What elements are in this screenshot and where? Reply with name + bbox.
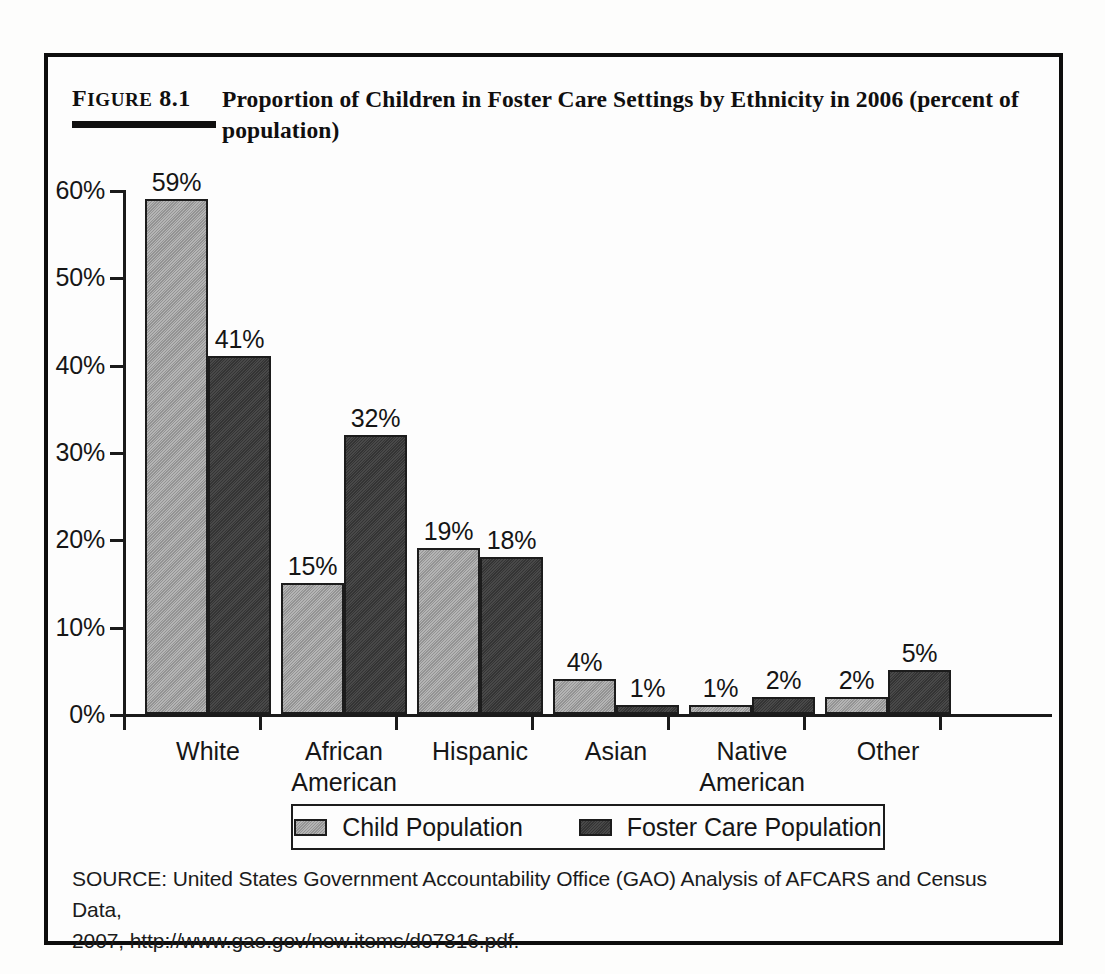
bar-child-population: 59% <box>145 199 208 714</box>
y-axis-tick <box>110 365 123 368</box>
bar-child-population: 2% <box>825 697 888 714</box>
x-axis-category-label: AfricanAmerican <box>291 736 397 798</box>
bar-value-label: 2% <box>766 666 802 695</box>
y-axis-tick-label: 0% <box>69 700 105 729</box>
bar-child-population: 19% <box>417 548 480 714</box>
chart-legend: Child PopulationFoster Care Population <box>291 804 885 850</box>
bar-child-population: 1% <box>689 705 752 714</box>
x-axis-category-label-line: African <box>291 736 397 767</box>
y-axis-line <box>123 190 126 714</box>
bar-group: 4%1%Asian <box>553 190 679 714</box>
y-axis-tick-label: 20% <box>56 525 105 554</box>
bar-foster-care-population: 32% <box>344 435 407 714</box>
bar-child-population: 15% <box>281 583 344 714</box>
legend-item: Child Population <box>294 813 522 842</box>
x-axis-category-label-line: White <box>176 736 240 767</box>
bar-value-label: 59% <box>152 168 201 197</box>
plot-area: 60%50%40%30%20%10%0% 59%41%White15%32%Af… <box>123 190 1052 714</box>
y-axis-tick-label: 60% <box>56 176 105 205</box>
bar-foster-care-population: 2% <box>752 697 815 714</box>
x-axis-tick <box>259 717 262 730</box>
bar-foster-care-population: 1% <box>616 705 679 714</box>
bar-group: 59%41%White <box>145 190 271 714</box>
y-axis-tick-label: 40% <box>56 350 105 379</box>
source-line-2: 2007, http://www.gao.gov/new.items/d0781… <box>72 925 1040 956</box>
bar-foster-care-population: 41% <box>208 356 271 714</box>
y-axis-tick <box>110 539 123 542</box>
bar-value-label: 1% <box>630 674 666 703</box>
x-axis-category-label: NativeAmerican <box>699 736 805 798</box>
bar-value-label: 2% <box>839 666 875 695</box>
bar-value-label: 32% <box>351 404 400 433</box>
y-axis-tick <box>110 277 123 280</box>
bar-value-label: 15% <box>288 552 337 581</box>
bar-group-bars: 1%2% <box>689 190 815 714</box>
x-axis-category-label: Hispanic <box>432 736 528 767</box>
bar-foster-care-population: 18% <box>480 557 543 714</box>
bar-group: 19%18%Hispanic <box>417 190 543 714</box>
y-axis-tick-label: 10% <box>56 612 105 641</box>
x-axis-line <box>123 714 1052 717</box>
y-axis-tick <box>110 714 123 717</box>
bar-group: 1%2%NativeAmerican <box>689 190 815 714</box>
bar-group: 15%32%AfricanAmerican <box>281 190 407 714</box>
bar-value-label: 4% <box>567 648 603 677</box>
x-axis-tick <box>803 717 806 730</box>
bar-value-label: 19% <box>424 517 473 546</box>
legend-swatch <box>294 819 327 836</box>
x-axis-category-label-line: Native <box>699 736 805 767</box>
y-axis-tick-label: 50% <box>56 263 105 292</box>
bar-foster-care-population: 5% <box>888 670 951 714</box>
bar-group-bars: 15%32% <box>281 190 407 714</box>
x-axis-category-label: Asian <box>585 736 648 767</box>
legend-swatch <box>579 819 612 836</box>
bar-value-label: 18% <box>487 526 536 555</box>
figure-frame: FIGURE 8.1 Proportion of Children in Fos… <box>44 53 1063 945</box>
x-axis-tick <box>395 717 398 730</box>
x-axis-category-label-line: Hispanic <box>432 736 528 767</box>
y-axis-tick <box>110 190 123 193</box>
x-axis-tick <box>123 717 126 730</box>
bar-value-label: 1% <box>703 674 739 703</box>
x-axis-category-label-line: Other <box>857 736 920 767</box>
x-axis-category-label: Other <box>857 736 920 767</box>
x-axis-tick <box>531 717 534 730</box>
x-axis-category-label: White <box>176 736 240 767</box>
legend-label: Foster Care Population <box>627 813 882 842</box>
x-axis-category-label-line: American <box>291 767 397 798</box>
x-axis-category-label-line: American <box>699 767 805 798</box>
bar-child-population: 4% <box>553 679 616 714</box>
y-axis-tick <box>110 627 123 630</box>
source-note: SOURCE: United States Government Account… <box>72 863 1040 956</box>
bar-group: 2%5%Other <box>825 190 951 714</box>
x-axis-tick <box>667 717 670 730</box>
bar-group-bars: 59%41% <box>145 190 271 714</box>
legend-item: Foster Care Population <box>579 813 882 842</box>
source-line-1: SOURCE: United States Government Account… <box>72 863 1040 925</box>
x-axis-category-label-line: Asian <box>585 736 648 767</box>
bar-value-label: 5% <box>902 639 938 668</box>
x-axis-tick <box>939 717 942 730</box>
bar-group-bars: 4%1% <box>553 190 679 714</box>
legend-label: Child Population <box>342 813 522 842</box>
bar-group-bars: 2%5% <box>825 190 951 714</box>
bar-value-label: 41% <box>215 325 264 354</box>
y-axis-tick <box>110 452 123 455</box>
y-axis-tick-label: 30% <box>56 438 105 467</box>
bar-group-bars: 19%18% <box>417 190 543 714</box>
